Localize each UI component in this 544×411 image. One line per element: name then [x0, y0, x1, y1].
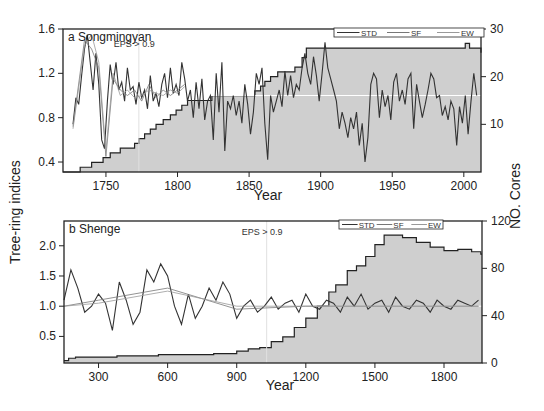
- y-tick-label: 1.0: [39, 299, 56, 313]
- x-tick-label: 2000: [450, 179, 477, 193]
- x-tick-label: 1950: [379, 179, 406, 193]
- panel-title: b Shenge: [69, 222, 121, 236]
- legend-label-sf: SF: [411, 29, 421, 38]
- x-tick-label: 900: [227, 370, 247, 384]
- legend-label-std: STD: [359, 221, 375, 230]
- y2-tick-label: 30: [490, 22, 504, 36]
- y2-tick-label: 80: [491, 261, 505, 275]
- y2-tick-label: 40: [491, 309, 505, 323]
- shared-ylabel-right: NO. Cores: [507, 163, 523, 229]
- y-tick-label: 1.6: [38, 22, 55, 36]
- x-axis-title: Year: [254, 187, 283, 203]
- y-tick-label: 1.5: [39, 269, 56, 283]
- legend-label-ew: EW: [461, 29, 474, 38]
- panel-b-shenge: 3006009001200150018000.51.01.52.00408012…: [39, 214, 511, 393]
- x-tick-label: 300: [89, 370, 109, 384]
- y-tick-label: 1.2: [38, 66, 55, 80]
- eps-annotation: EPS > 0.9: [242, 227, 283, 237]
- x-tick-label: 600: [158, 370, 178, 384]
- x-tick-label: 1800: [164, 179, 191, 193]
- eps-annotation: EPS > 0.9: [114, 39, 155, 49]
- shared-ylabel-left: Tree-ring indices: [7, 160, 23, 264]
- y-tick-label: 2.0: [39, 239, 56, 253]
- x-tick-label: 1200: [292, 370, 319, 384]
- legend-label-std: STD: [361, 29, 377, 38]
- x-tick-label: 1500: [362, 370, 389, 384]
- y2-tick-label: 10: [490, 117, 504, 131]
- panel-a-songmingyan: 1750180018501900195020000.40.81.21.61020…: [38, 22, 503, 203]
- y-tick-label: 0.8: [38, 111, 55, 125]
- legend: STDSFEW: [339, 220, 443, 230]
- cores-area: [63, 43, 481, 172]
- y-tick-label: 0.5: [39, 329, 56, 343]
- x-tick-label: 1800: [431, 370, 458, 384]
- y2-tick-label: 20: [490, 70, 504, 84]
- x-axis-title: Year: [266, 377, 295, 393]
- legend: STDSFEW: [334, 28, 484, 38]
- legend-label-sf: SF: [393, 221, 403, 230]
- y-tick-label: 0.4: [38, 155, 55, 169]
- figure: 1750180018501900195020000.40.81.21.61020…: [0, 0, 544, 411]
- x-tick-label: 1750: [93, 179, 120, 193]
- y2-tick-label: 0: [491, 356, 498, 370]
- x-tick-label: 1900: [307, 179, 334, 193]
- legend-label-ew: EW: [428, 221, 441, 230]
